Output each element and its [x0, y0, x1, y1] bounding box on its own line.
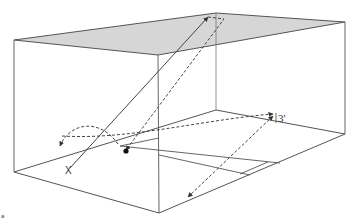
floor-edge-front-right — [159, 134, 345, 213]
box-diagram — [0, 0, 353, 221]
floor-line-1 — [120, 146, 280, 163]
floor-line-5 — [215, 128, 280, 163]
edge-front-vertical — [158, 55, 159, 213]
figure-mark: a — [1, 213, 4, 219]
dashed-diagonal-trajectory — [188, 116, 273, 197]
ball-point — [123, 148, 128, 153]
floor-line-2 — [120, 138, 159, 146]
floor-edge-left-front — [14, 172, 159, 213]
height-label: 3' — [278, 113, 285, 124]
x-marker-label: X — [65, 166, 72, 176]
